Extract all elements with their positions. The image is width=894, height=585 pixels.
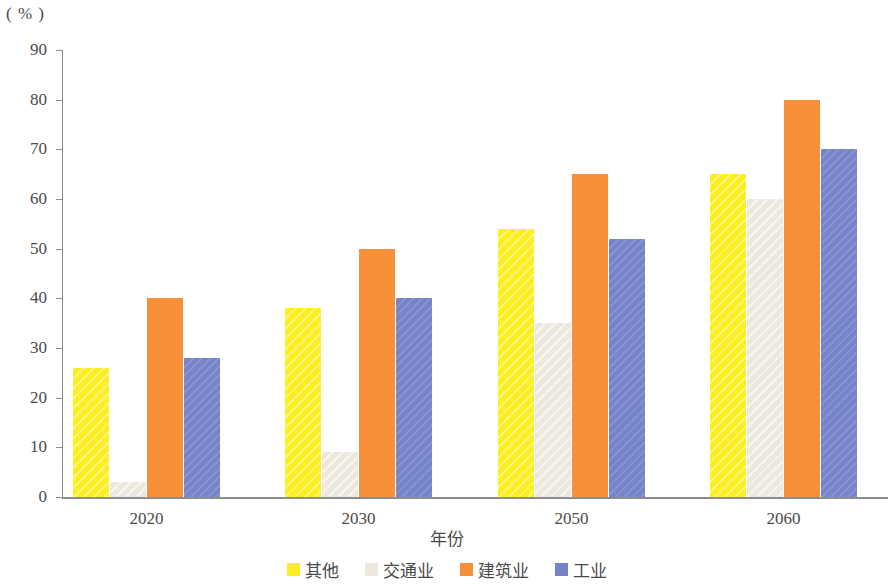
bar-2060-其他 xyxy=(710,174,746,497)
y-tick-70: 70 xyxy=(56,149,62,150)
y-tick-label-0: 0 xyxy=(39,487,48,507)
bar-2050-其他 xyxy=(498,229,534,497)
legend-label-other: 其他 xyxy=(305,557,339,582)
bar-2050-建筑业 xyxy=(572,174,608,497)
y-tick-50: 50 xyxy=(56,249,62,250)
y-tick-60: 60 xyxy=(56,199,62,200)
legend-swatch-other xyxy=(287,563,300,576)
bar-2050-交通业 xyxy=(535,323,571,497)
legend-label-construction: 建筑业 xyxy=(478,557,529,582)
bar-group-2060 xyxy=(710,50,857,497)
bar-2020-工业 xyxy=(184,358,220,497)
y-tick-90: 90 xyxy=(56,50,62,51)
y-tick-label-40: 40 xyxy=(30,288,47,308)
y-tick-20: 20 xyxy=(56,398,62,399)
y-tick-label-90: 90 xyxy=(30,40,47,60)
bar-2030-其他 xyxy=(285,308,321,497)
x-axis-title: 年份 xyxy=(0,525,894,550)
bar-2060-交通业 xyxy=(747,199,783,497)
bar-2030-工业 xyxy=(396,298,432,497)
legend-item-industry[interactable]: 工业 xyxy=(555,557,607,582)
chart-legend: 其他交通业建筑业工业 xyxy=(0,557,894,582)
y-tick-label-50: 50 xyxy=(30,238,47,258)
plot-area: 9080706050403020100 2020203020502060 xyxy=(62,50,888,497)
bar-2030-建筑业 xyxy=(359,249,395,497)
bar-chart: ( % ) 9080706050403020100 20202030205020… xyxy=(0,0,894,585)
bar-2020-其他 xyxy=(73,368,109,497)
legend-item-construction[interactable]: 建筑业 xyxy=(460,557,529,582)
bar-2050-工业 xyxy=(609,239,645,497)
bar-2030-交通业 xyxy=(322,452,358,497)
y-tick-label-80: 80 xyxy=(30,89,47,109)
y-axis-unit-label: ( % ) xyxy=(6,4,45,24)
y-tick-80: 80 xyxy=(56,100,62,101)
legend-swatch-industry xyxy=(555,563,568,576)
legend-item-other[interactable]: 其他 xyxy=(287,557,339,582)
y-tick-40: 40 xyxy=(56,298,62,299)
y-tick-0: 0 xyxy=(56,497,62,498)
y-tick-10: 10 xyxy=(56,447,62,448)
x-axis-line xyxy=(62,497,888,499)
bar-2060-建筑业 xyxy=(784,100,820,497)
y-tick-label-20: 20 xyxy=(30,387,47,407)
legend-label-industry: 工业 xyxy=(573,557,607,582)
y-axis-line xyxy=(62,50,63,498)
bar-group-2030 xyxy=(285,50,432,497)
legend-item-transport[interactable]: 交通业 xyxy=(365,557,434,582)
y-tick-label-30: 30 xyxy=(30,338,47,358)
bar-2020-建筑业 xyxy=(147,298,183,497)
bar-2020-交通业 xyxy=(110,482,146,497)
y-tick-label-70: 70 xyxy=(30,139,47,159)
y-tick-label-60: 60 xyxy=(30,189,47,209)
legend-label-transport: 交通业 xyxy=(383,557,434,582)
bar-group-2050 xyxy=(498,50,645,497)
bar-group-2020 xyxy=(73,50,220,497)
legend-swatch-transport xyxy=(365,563,378,576)
legend-swatch-construction xyxy=(460,563,473,576)
y-tick-label-10: 10 xyxy=(30,437,47,457)
bar-2060-工业 xyxy=(821,149,857,497)
y-tick-30: 30 xyxy=(56,348,62,349)
